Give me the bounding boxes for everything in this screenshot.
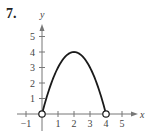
x-tick-label: 1: [56, 118, 61, 129]
parabola-plot: xy−11234512345: [0, 0, 146, 136]
y-tick-label: 3: [30, 62, 35, 73]
x-tick-label: 2: [72, 118, 77, 129]
figure: 7. xy−11234512345: [0, 0, 146, 136]
y-tick-label: 5: [30, 31, 35, 42]
x-tick-label: −1: [21, 118, 32, 129]
x-axis-arrow-icon: [131, 112, 138, 117]
x-tick-label: 3: [88, 118, 93, 129]
problem-number: 7.: [6, 6, 17, 22]
parabola-curve: [42, 52, 106, 114]
y-axis-label: y: [39, 9, 45, 20]
y-tick-label: 2: [30, 78, 35, 89]
x-tick-label: 4: [104, 118, 109, 129]
open-circle-endpoint: [39, 111, 45, 117]
y-tick-label: 4: [30, 47, 35, 58]
y-tick-label: 1: [30, 93, 35, 104]
x-axis-label: x: [139, 109, 145, 120]
open-circle-endpoint: [103, 111, 109, 117]
y-axis-arrow-icon: [40, 24, 45, 31]
x-tick-label: 5: [120, 118, 125, 129]
